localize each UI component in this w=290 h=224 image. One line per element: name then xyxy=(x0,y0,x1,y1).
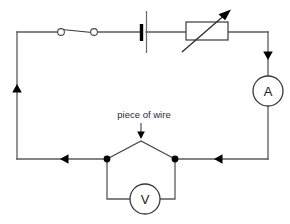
switch-terminal-right[interactable] xyxy=(91,29,98,36)
switch-lever[interactable] xyxy=(62,30,92,33)
switch-terminal-left[interactable] xyxy=(58,29,65,36)
circuit-schematic: V A piece of wire xyxy=(0,0,290,224)
junction-node-right xyxy=(172,156,179,163)
current-arrow-bottom-right xyxy=(214,154,223,164)
current-arrow-bottom-left xyxy=(60,154,69,164)
ammeter-label: A xyxy=(264,84,273,99)
circuit-diagram-canvas: V A piece of wire xyxy=(0,0,290,224)
junction-node-left xyxy=(104,156,111,163)
piece-of-wire-leader-arrowhead xyxy=(137,132,145,140)
current-arrow-left-up xyxy=(12,84,22,93)
wire-voltmeter-right-leg xyxy=(160,159,175,199)
wire-voltmeter-left-leg xyxy=(107,159,130,199)
voltmeter-label: V xyxy=(141,192,150,207)
piece-of-wire-annotation-text: piece of wire xyxy=(117,109,170,120)
current-arrow-right-down xyxy=(263,52,273,61)
piece-of-wire-peak xyxy=(107,141,175,159)
